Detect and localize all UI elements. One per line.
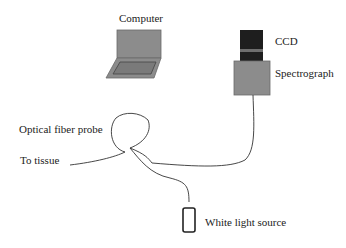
fiber-to-light-source bbox=[130, 148, 189, 202]
spectrograph-cable bbox=[152, 95, 254, 166]
white-light-source-icon bbox=[183, 208, 195, 232]
spectrograph-icon bbox=[234, 61, 270, 95]
ccd-icon bbox=[240, 30, 263, 61]
diagram: Computer CCD Spectrograph Optical fiber … bbox=[0, 0, 346, 248]
optical-fiber-probe-label: Optical fiber probe bbox=[19, 124, 103, 135]
ccd-label: CCD bbox=[275, 36, 298, 47]
fiber-to-tissue bbox=[70, 152, 125, 165]
spectrograph-label: Spectrograph bbox=[275, 68, 334, 79]
to-tissue-label: To tissue bbox=[20, 155, 59, 166]
computer-label: Computer bbox=[119, 13, 163, 24]
white-light-source-label: White light source bbox=[205, 217, 286, 228]
computer-icon bbox=[106, 30, 161, 78]
